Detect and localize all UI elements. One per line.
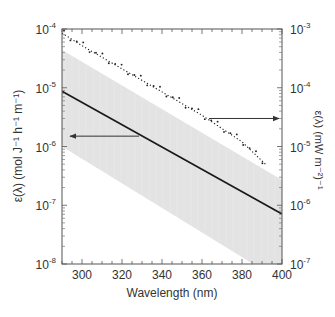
data-point: [101, 53, 103, 55]
data-point: [63, 29, 65, 31]
data-point: [178, 97, 180, 99]
data-point: [69, 39, 71, 41]
data-point: [197, 108, 199, 110]
data-point: [133, 74, 135, 76]
data-point: [108, 62, 110, 64]
x-tick-label: 320: [112, 268, 132, 282]
data-point: [185, 107, 187, 109]
data-point: [223, 131, 225, 133]
y-tick-label-left: 10-8: [36, 256, 57, 272]
y-tick-label-right: 10-4: [290, 80, 311, 96]
data-point: [82, 41, 84, 43]
data-point: [255, 150, 257, 152]
variability-band: [62, 50, 282, 282]
data-point: [76, 40, 78, 42]
x-tick-label: 380: [232, 268, 252, 282]
data-point: [172, 96, 174, 98]
x-axis-title: Wavelength (nm): [127, 286, 218, 300]
data-point: [95, 52, 97, 54]
shaded-band: [62, 29, 282, 282]
y-axis-left-title: ε(λ) (mol J⁻¹ h⁻¹ m⁻¹): [11, 90, 25, 203]
data-point: [191, 107, 193, 109]
x-tick-label: 340: [152, 268, 172, 282]
data-point: [261, 162, 263, 164]
y-tick-label-right: 10-3: [290, 21, 311, 37]
data-point: [242, 144, 244, 146]
data-point: [153, 85, 155, 87]
data-point: [229, 132, 231, 134]
data-point: [146, 84, 148, 86]
y-tick-label-left: 10-7: [36, 197, 57, 213]
data-point: [127, 73, 129, 75]
y-tick-label-right: 10-7: [290, 256, 311, 272]
y-tick-label-left: 10-5: [36, 80, 57, 96]
y-tick-label-right: 10-6: [290, 197, 311, 213]
data-point: [114, 63, 116, 65]
data-point: [89, 51, 91, 53]
x-tick-label: 300: [72, 268, 92, 282]
chart: 300320340360380400 10-410-510-610-710-8 …: [0, 0, 335, 317]
data-point: [159, 86, 161, 88]
data-point: [121, 64, 123, 66]
data-point: [217, 121, 219, 123]
x-tick-label: 360: [192, 268, 212, 282]
y-tick-label-left: 10-6: [36, 139, 57, 155]
data-point: [210, 119, 212, 121]
data-point: [204, 118, 206, 120]
data-point: [165, 96, 167, 98]
data-point: [249, 147, 251, 149]
y-axis-right-title: ε(λ) (mW m⁻²)⁻¹: [313, 110, 325, 190]
data-point: [236, 133, 238, 135]
data-point: [140, 75, 142, 77]
y-tick-label-right: 10-5: [290, 139, 311, 155]
y-tick-label-left: 10-4: [36, 21, 57, 37]
